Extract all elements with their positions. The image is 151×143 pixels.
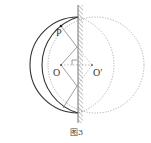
virtual-rays (61, 47, 92, 86)
mirror-circle-diagram: P O O′ 图3 (0, 0, 151, 143)
point-o-prime (91, 64, 93, 66)
label-p: P (56, 27, 62, 38)
plane-mirror (78, 5, 83, 123)
right-angle-mark (72, 60, 77, 65)
light-rays (61, 26, 77, 108)
point-o (60, 64, 62, 66)
label-o-prime: O′ (93, 67, 102, 78)
figure-caption: 图3 (70, 128, 83, 137)
label-o: O (53, 67, 60, 78)
